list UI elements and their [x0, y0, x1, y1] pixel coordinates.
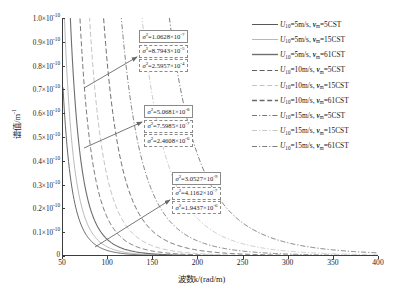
- y-tick-label: 0.5×10-10: [33, 132, 60, 142]
- y-tick-label: 0.7×10-10: [33, 85, 60, 95]
- legend-item-3[interactable]: U10=5m/s, νm=61CST: [252, 47, 402, 62]
- y-tick-mark: [62, 18, 65, 19]
- annotation-box-top-1: σ2=1.0628×10-7: [139, 30, 188, 43]
- annotation-box-top-3: σ2=2.5957×10-4: [139, 59, 188, 72]
- legend-item-6[interactable]: U10=10m/s, νm=61CST: [252, 93, 402, 108]
- legend-item-label: U10=5m/s, νm=61CST: [280, 51, 345, 58]
- legend-line-swatch: [252, 96, 278, 105]
- y-tick-label: 0.9×10-10: [33, 37, 60, 47]
- annotation-box-middle-2: σ2=7.5985×10-7: [144, 120, 193, 133]
- x-tick-label: 400: [372, 259, 383, 267]
- legend-line-swatch: [252, 142, 278, 151]
- legend-item-7[interactable]: U10=15m/s, νm=5CST: [252, 108, 402, 123]
- x-tick-mark: [152, 256, 153, 259]
- legend: U10=5m/s, νm=5CSTU10=5m/s, νm=15CSTU10=5…: [252, 17, 402, 154]
- y-tick-mark: [62, 42, 65, 43]
- x-tick-label: 50: [58, 259, 66, 267]
- x-tick-label: 350: [327, 259, 338, 267]
- y-tick-mark: [62, 208, 65, 209]
- x-tick-mark: [197, 256, 198, 259]
- legend-item-label: U10=15m/s, νm=61CST: [280, 142, 349, 149]
- legend-item-4[interactable]: U10=10m/s, νm=5CST: [252, 63, 402, 78]
- y-tick-label: 1.0×10-10: [33, 13, 60, 23]
- legend-line-swatch: [252, 20, 278, 29]
- annotation-box-bottom-1: σ2=3.0527×10-9: [172, 172, 221, 185]
- legend-item-label: U10=5m/s, νm=15CST: [280, 36, 345, 43]
- y-tick-mark: [62, 66, 65, 67]
- legend-item-label: U10=10m/s, νm=61CST: [280, 97, 349, 104]
- legend-item-label: U10=5m/s, νm=5CST: [280, 21, 341, 28]
- annotation-box-middle-3: σ2=2.4608×10-6: [144, 134, 193, 147]
- y-tick-mark: [62, 232, 65, 233]
- y-tick-mark: [62, 185, 65, 186]
- legend-item-8[interactable]: U10=15m/s, νm=15CST: [252, 123, 402, 138]
- legend-item-label: U10=15m/s, νm=5CST: [280, 112, 345, 119]
- x-tick-label: 300: [282, 259, 293, 267]
- y-tick-mark: [62, 89, 65, 90]
- x-tick-mark: [333, 256, 334, 259]
- x-tick-mark: [107, 256, 108, 259]
- x-tick-label: 150: [147, 259, 158, 267]
- y-axis-tick-labels: 00.1×10-100.2×10-100.3×10-100.4×10-100.5…: [0, 0, 60, 256]
- legend-line-swatch: [252, 35, 278, 44]
- legend-item-2[interactable]: U10=5m/s, νm=15CST: [252, 32, 402, 47]
- legend-line-swatch: [252, 111, 278, 120]
- annotation-box-middle-1: σ2=5.0681×10-8: [144, 105, 193, 118]
- annotation-group-top: σ2=1.0628×10-7σ2=8.7943×10-5σ2=2.5957×10…: [139, 30, 188, 74]
- legend-line-swatch: [252, 126, 278, 135]
- y-tick-label: 0.3×10-10: [33, 180, 60, 190]
- x-axis-title: 波数k/(rad/m): [0, 272, 403, 284]
- y-tick-label: 0.2×10-10: [33, 204, 60, 214]
- legend-item-1[interactable]: U10=5m/s, νm=5CST: [252, 17, 402, 32]
- x-axis-title-text: 波数k/(rad/m): [178, 275, 226, 284]
- y-tick-mark: [62, 161, 65, 162]
- y-tick-label: 0.1×10-10: [33, 227, 60, 237]
- legend-item-label: U10=10m/s, νm=15CST: [280, 82, 349, 89]
- y-tick-label: 0.8×10-10: [33, 61, 60, 71]
- legend-line-swatch: [252, 66, 278, 75]
- x-tick-label: 100: [101, 259, 112, 267]
- legend-item-label: U10=15m/s, νm=15CST: [280, 127, 349, 134]
- legend-line-swatch: [252, 81, 278, 90]
- x-tick-label: 250: [237, 259, 248, 267]
- annotation-box-bottom-3: σ2=1.9437×10-6: [172, 201, 221, 214]
- x-tick-label: 200: [192, 259, 203, 267]
- annotation-box-top-2: σ2=8.7943×10-5: [139, 45, 188, 58]
- legend-line-swatch: [252, 50, 278, 59]
- x-tick-mark: [288, 256, 289, 259]
- legend-item-label: U10=10m/s, νm=5CST: [280, 66, 345, 73]
- y-tick-label: 0.6×10-10: [33, 108, 60, 118]
- y-tick-mark: [62, 113, 65, 114]
- legend-item-5[interactable]: U10=10m/s, νm=15CST: [252, 78, 402, 93]
- y-tick-mark: [62, 137, 65, 138]
- x-tick-mark: [62, 256, 63, 259]
- annotation-group-bottom: σ2=3.0527×10-9σ2=4.1162×10-7σ2=1.9437×10…: [172, 172, 221, 216]
- legend-item-9[interactable]: U10=15m/s, νm=61CST: [252, 139, 402, 154]
- x-tick-mark: [243, 256, 244, 259]
- annotation-box-bottom-2: σ2=4.1162×10-7: [172, 187, 221, 200]
- x-tick-mark: [378, 256, 379, 259]
- y-tick-label: 0.4×10-10: [33, 156, 60, 166]
- chart-root: 谱值/m-1 00.1×10-100.2×10-100.3×10-100.4×1…: [0, 0, 403, 304]
- annotation-group-middle: σ2=5.0681×10-8σ2=7.5985×10-7σ2=2.4608×10…: [144, 105, 193, 149]
